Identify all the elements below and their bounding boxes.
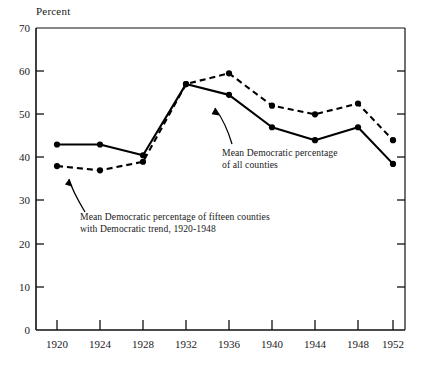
fifteen-counties-point-1928 (140, 152, 146, 158)
fifteen-counties-point-1920 (54, 141, 60, 147)
all-counties-point-1924 (97, 167, 103, 173)
all-counties-point-1944 (312, 111, 318, 117)
plot-frame (36, 28, 405, 330)
fifteen-counties-point-1944 (312, 137, 318, 143)
leader-line-all-counties (212, 108, 232, 144)
fifteen-counties-point-1952 (390, 161, 396, 167)
y-axis-ticks (36, 71, 44, 287)
fifteen-counties-point-1932 (183, 81, 189, 87)
fifteen-counties-point-1948 (355, 124, 361, 130)
leader-line-fifteen-counties (65, 179, 85, 212)
chart-figure: Percent 70 60 50 40 30 20 10 0 1920 1924… (0, 0, 425, 365)
fifteen-counties-point-1924 (97, 141, 103, 147)
fifteen-counties-point-1936 (226, 92, 232, 98)
fifteen-counties-point-1940 (269, 124, 275, 130)
series-all-counties (54, 70, 396, 173)
all-counties-point-1928 (140, 159, 146, 165)
all-counties-point-1940 (269, 103, 275, 109)
all-counties-point-1948 (355, 100, 361, 106)
all-counties-point-1936 (226, 70, 232, 76)
all-counties-point-1920 (54, 163, 60, 169)
all-counties-point-1952 (390, 137, 396, 143)
x-axis-ticks (57, 320, 393, 330)
y-axis-ticks-right (397, 71, 405, 287)
plot-area (0, 0, 425, 365)
